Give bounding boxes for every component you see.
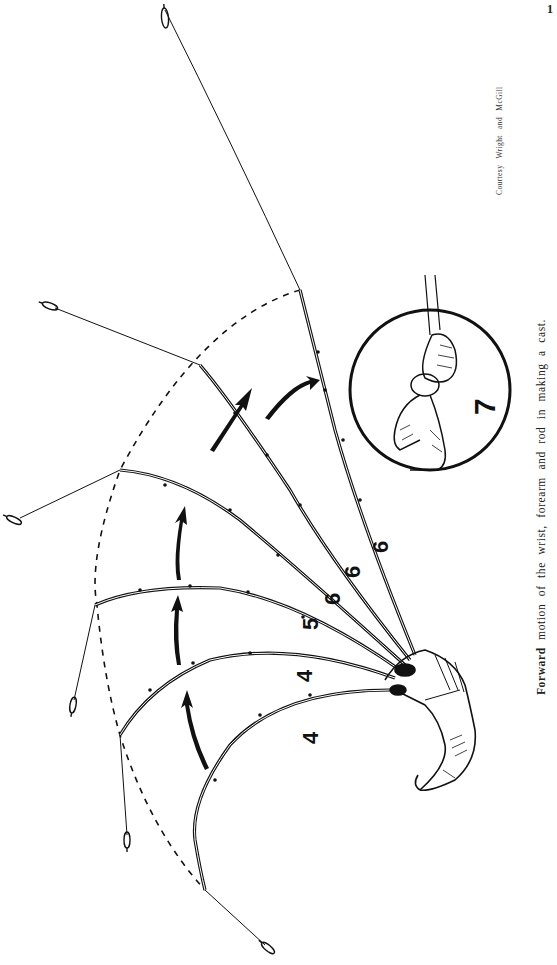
arrow-icon [181, 690, 209, 770]
caption-first-word: Forward [535, 647, 547, 695]
lures [2, 4, 276, 956]
hand-and-forearm [385, 650, 475, 790]
label-rod-3: 5 [298, 618, 323, 630]
label-rod-4: 6 [320, 593, 345, 605]
page-number: 1 [547, 2, 553, 17]
label-rod-5: 6 [340, 566, 365, 578]
arrow-icon [175, 506, 187, 580]
inset-label: 7 [468, 398, 501, 415]
motion-arrows [171, 376, 320, 770]
caption-text: motion of the wrist, forearm and rod in … [535, 319, 547, 640]
lure-icon [2, 512, 23, 526]
rod-1 [194, 690, 390, 890]
casting-diagram: 4 4 5 6 6 6 7 [0, 0, 557, 965]
lure-icon [68, 697, 77, 718]
dashed-tip-path [95, 290, 300, 890]
figure-caption: Forward motion of the wrist, forearm and… [535, 319, 547, 695]
arrow-icon [210, 388, 252, 452]
label-rod-6: 6 [368, 541, 393, 553]
image-credit: Courtesy Wright and McGill [495, 87, 504, 195]
rod-guides [138, 350, 362, 782]
rod-3 [95, 588, 400, 670]
label-rod-1: 4 [298, 731, 323, 744]
inset-grip-detail: 7 [350, 275, 510, 470]
arrow-icon [171, 595, 183, 665]
lure-icon [38, 299, 59, 311]
arrow-icon [265, 376, 320, 420]
lure-icon [257, 938, 276, 955]
lure-icon [160, 4, 169, 29]
label-rod-2: 4 [292, 669, 317, 682]
